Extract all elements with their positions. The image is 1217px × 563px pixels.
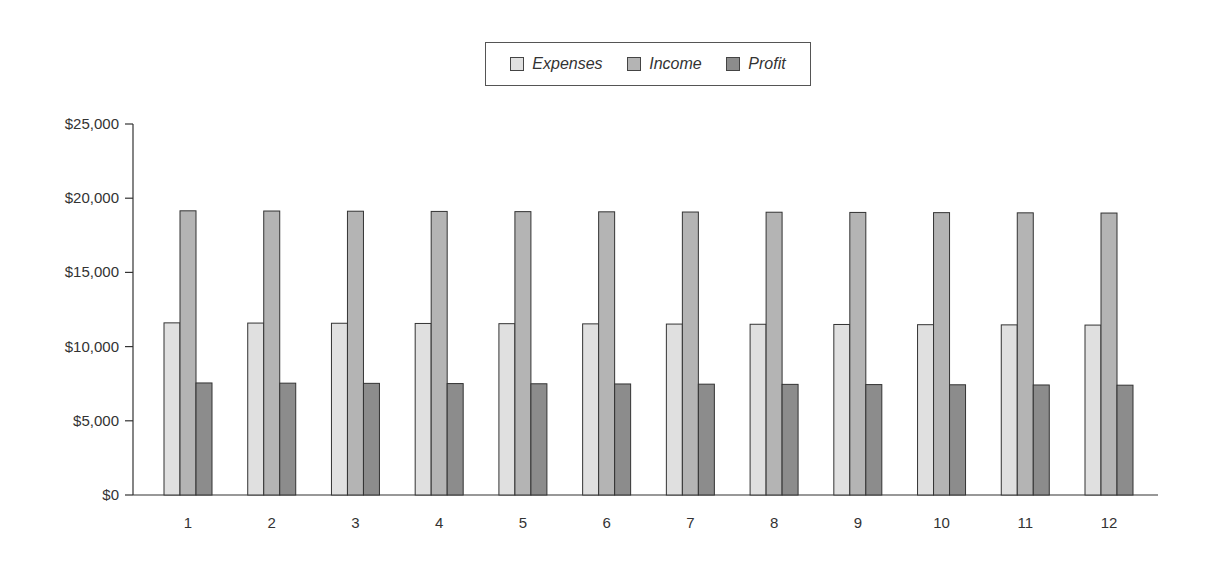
bar-profit-5 [531,384,547,495]
x-tick-label: 11 [1017,514,1033,531]
bar-expenses-6 [583,324,599,495]
y-tick-label: $25,000 [65,115,119,132]
x-axis: 123456789101112 [133,495,1158,531]
x-tick-label: 6 [602,514,610,531]
bar-profit-10 [950,385,966,495]
bar-expenses-2 [248,323,264,495]
y-tick-label: $0 [102,486,119,503]
bar-profit-11 [1033,385,1049,495]
bar-income-3 [347,211,363,495]
bar-profit-8 [782,384,798,495]
bar-profit-6 [615,384,631,495]
x-tick-label: 5 [519,514,527,531]
category-group-12 [1085,213,1133,495]
bar-profit-3 [363,383,379,495]
bar-income-10 [934,213,950,495]
bar-expenses-8 [750,324,766,495]
category-group-10 [918,213,966,495]
x-tick-label: 7 [686,514,694,531]
bar-expenses-1 [164,323,180,495]
x-tick-label: 12 [1101,514,1118,531]
category-group-6 [583,212,631,495]
bar-income-5 [515,212,531,495]
bar-income-7 [682,212,698,495]
bar-expenses-9 [834,324,850,495]
y-axis: $0$5,000$10,000$15,000$20,000$25,000 [65,115,133,503]
bar-income-8 [766,212,782,495]
bar-expenses-10 [918,325,934,495]
bar-income-6 [599,212,615,495]
bar-expenses-5 [499,324,515,495]
category-group-1 [164,211,212,495]
y-tick-label: $5,000 [73,412,119,429]
bar-expenses-3 [331,323,347,495]
bar-expenses-12 [1085,325,1101,495]
plot-area: $0$5,000$10,000$15,000$20,000$25,000 123… [0,0,1217,563]
category-group-4 [415,211,463,495]
bar-expenses-7 [666,324,682,495]
chart-container: Expenses Income Profit $0$5,000$10,000$1… [0,0,1217,563]
bar-expenses-4 [415,323,431,495]
category-group-5 [499,212,547,495]
bar-profit-2 [280,383,296,495]
bar-income-11 [1017,213,1033,495]
bar-income-2 [264,211,280,495]
category-group-9 [834,212,882,495]
bar-income-1 [180,211,196,495]
x-tick-label: 8 [770,514,778,531]
bar-income-4 [431,211,447,495]
y-tick-label: $15,000 [65,263,119,280]
bar-profit-9 [866,385,882,495]
category-group-11 [1001,213,1049,495]
x-tick-label: 2 [268,514,276,531]
x-tick-label: 4 [435,514,443,531]
category-group-2 [248,211,296,495]
x-tick-label: 10 [933,514,950,531]
bar-profit-4 [447,384,463,495]
bar-income-9 [850,212,866,495]
category-group-3 [331,211,379,495]
bar-profit-1 [196,383,212,495]
bar-profit-12 [1117,385,1133,495]
y-tick-label: $20,000 [65,189,119,206]
bar-income-12 [1101,213,1117,495]
y-tick-label: $10,000 [65,338,119,355]
x-tick-label: 9 [854,514,862,531]
category-group-7 [666,212,714,495]
x-tick-label: 3 [351,514,359,531]
bar-series-group [164,211,1133,495]
x-tick-label: 1 [184,514,192,531]
category-group-8 [750,212,798,495]
bar-profit-7 [698,384,714,495]
bar-expenses-11 [1001,325,1017,495]
